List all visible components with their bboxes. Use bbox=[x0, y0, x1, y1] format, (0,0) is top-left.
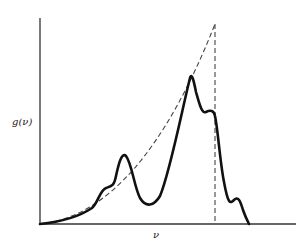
density-of-states-chart bbox=[0, 0, 308, 246]
y-axis-label: g(ν) bbox=[12, 116, 32, 127]
debye-parabola-curve bbox=[40, 24, 215, 224]
x-axis-label: ν bbox=[153, 229, 159, 240]
actual-spectrum-curve bbox=[40, 76, 249, 224]
